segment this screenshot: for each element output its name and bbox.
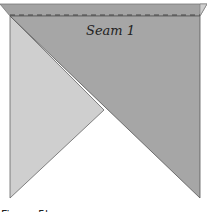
seam-label: Seam 1 [86, 23, 135, 38]
figure-caption: Figure 5b [1, 208, 52, 212]
quilt-diagram: Seam 1 Figure 5b [0, 0, 207, 212]
seam-allowance-band [0, 4, 207, 16]
corner-fold-triangle [200, 4, 207, 16]
